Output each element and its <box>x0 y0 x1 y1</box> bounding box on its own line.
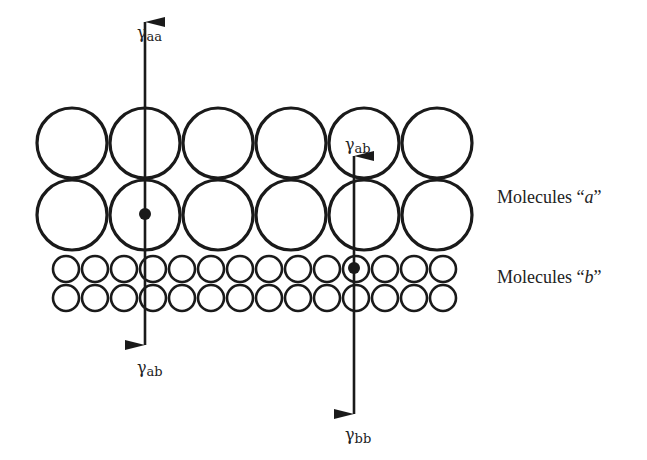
molecule-b <box>401 285 427 311</box>
molecules-a-layer <box>37 108 472 250</box>
label-molecules-b: Molecules “b” <box>497 267 601 287</box>
molecule-b <box>372 285 398 311</box>
molecule-b <box>401 256 427 282</box>
molecule-b <box>430 256 456 282</box>
molecule-b <box>53 256 79 282</box>
reference-molecule-dot <box>139 208 151 220</box>
gamma-label-bottom: γbb <box>345 425 371 446</box>
molecule-a <box>37 108 107 178</box>
molecule-a <box>256 180 326 250</box>
reference-molecule-dot <box>348 262 360 274</box>
molecule-b <box>372 256 398 282</box>
molecule-b <box>111 285 137 311</box>
molecule-a <box>329 180 399 250</box>
molecule-b <box>430 285 456 311</box>
molecule-b <box>285 285 311 311</box>
molecule-a <box>183 108 253 178</box>
molecule-b <box>169 285 195 311</box>
arrow-left: γaaγab <box>137 22 163 379</box>
molecule-b <box>169 256 195 282</box>
diagram-canvas: γaaγabγabγbb Molecules “a” Molecules “b” <box>0 0 647 460</box>
molecule-a <box>402 108 472 178</box>
molecule-b <box>343 285 369 311</box>
molecule-b <box>256 285 282 311</box>
molecule-b <box>111 256 137 282</box>
molecule-b <box>227 285 253 311</box>
molecule-a <box>256 108 326 178</box>
molecule-b <box>82 285 108 311</box>
molecule-b <box>314 256 340 282</box>
molecule-a <box>402 180 472 250</box>
molecule-b <box>256 256 282 282</box>
molecule-b <box>82 256 108 282</box>
gamma-label-top: γab <box>345 135 371 156</box>
molecule-a <box>183 180 253 250</box>
molecule-a <box>37 180 107 250</box>
gamma-label-top: γaa <box>137 23 162 44</box>
molecule-b <box>227 256 253 282</box>
molecules-b-layer <box>53 256 456 311</box>
molecule-b <box>314 285 340 311</box>
label-molecules-a: Molecules “a” <box>497 187 601 207</box>
molecule-b <box>198 256 224 282</box>
molecule-b <box>198 285 224 311</box>
molecule-b <box>285 256 311 282</box>
molecule-b <box>53 285 79 311</box>
gamma-label-bottom: γab <box>137 358 163 379</box>
